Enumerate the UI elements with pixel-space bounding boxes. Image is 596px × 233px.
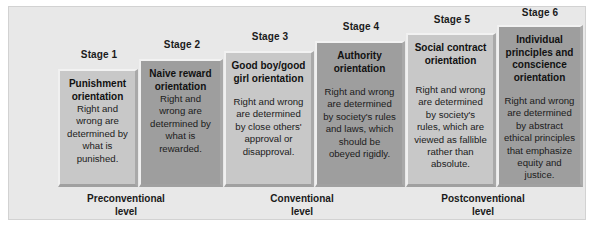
stage-label-5: Stage 5 [404,14,500,25]
stage-label-3: Stage 3 [222,31,318,42]
level-label-postconventional: Postconventional level [413,193,553,218]
level-label-conventional: Conventional level [237,193,367,218]
stage-label-6: Stage 6 [495,7,585,18]
stage-title-6: Individual principles and conscience ori… [504,34,575,84]
stage-description-5: Right and wrong are determined by societ… [413,84,488,171]
figure-frame: Stage 1 Punishment orientation Right and… [8,6,586,220]
stage-column-3: Stage 3 Good boy/good girl orientation R… [222,7,318,215]
stage-description-6: Right and wrong are determined by abstra… [504,95,575,182]
stage-column-2: Stage 2 Naive reward orientation Right a… [137,7,227,215]
stage-title-2: Naive reward orientation [146,68,215,93]
stage-column-5: Stage 5 Social contract orientation Righ… [404,7,500,215]
stage-description-2: Right and wrong are determined by what i… [146,93,215,155]
level-postconventional-line2: level [472,206,494,217]
level-preconventional-line1: Preconventional [87,193,165,204]
stage-box-3: Good boy/good girl orientation Right and… [224,51,314,187]
stage-title-4: Authority orientation [322,50,397,75]
stage-box-1: Punishment orientation Right and wrong a… [58,69,138,187]
stage-box-6: Individual principles and conscience ori… [497,25,583,187]
stage-box-4: Authority orientation Right and wrong ar… [315,41,405,187]
stage-label-1: Stage 1 [56,49,142,60]
level-postconventional-line1: Postconventional [441,193,524,204]
stage-title-5: Social contract orientation [413,42,488,67]
moral-development-stages-figure: Stage 1 Punishment orientation Right and… [0,0,596,233]
stage-description-4: Right and wrong are determined by societ… [322,86,397,160]
level-conventional-line1: Conventional [270,193,333,204]
stage-column-4: Stage 4 Authority orientation Right and … [313,7,409,215]
stage-box-5: Social contract orientation Right and wr… [406,33,496,187]
stage-box-2: Naive reward orientation Right and wrong… [139,59,223,187]
stage-title-3: Good boy/good girl orientation [231,60,306,85]
stage-description-1: Right and wrong are determined by what i… [65,103,130,165]
stage-description-3: Right and wrong are determined by close … [231,96,306,158]
stage-label-2: Stage 2 [137,39,227,50]
level-conventional-line2: level [291,206,313,217]
stage-title-1: Punishment orientation [65,78,130,103]
stage-label-4: Stage 4 [313,21,409,32]
level-preconventional-line2: level [115,206,137,217]
stage-column-6: Stage 6 Individual principles and consci… [495,7,585,215]
level-label-preconventional: Preconventional level [61,193,191,218]
stage-column-1: Stage 1 Punishment orientation Right and… [56,7,142,215]
